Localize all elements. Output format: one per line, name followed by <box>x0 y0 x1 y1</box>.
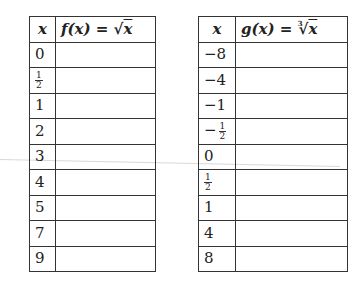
x-cell: −1 <box>199 93 236 119</box>
value-cell[interactable] <box>236 93 348 119</box>
x-cell: 3 <box>30 144 56 170</box>
value-cell[interactable] <box>236 221 348 247</box>
x-cell: 4 <box>30 170 56 196</box>
sqrt-icon: √ <box>114 20 124 38</box>
x-cell: 4 <box>199 221 236 247</box>
value-cell[interactable] <box>56 195 156 221</box>
table-row: 4 <box>199 221 348 247</box>
radicand: x <box>123 20 132 38</box>
table-row: 0 <box>30 42 156 68</box>
table-row: 0 <box>199 144 348 170</box>
table-row: 1 <box>30 93 156 119</box>
table-header-row: x f(x) = √x <box>30 17 156 43</box>
root-index: 3 <box>298 19 303 28</box>
header-fx-label: f(x) = <box>61 20 114 38</box>
x-cell: 12 <box>30 68 56 94</box>
table-row: 4 <box>30 170 156 196</box>
value-cell[interactable] <box>236 170 348 196</box>
x-cell: 8 <box>199 246 236 272</box>
table-g-cbrt: x g(x) = 3√x −8 −4 −1 −12 0 12 1 4 8 <box>198 16 348 272</box>
value-cell[interactable] <box>236 68 348 94</box>
table-row: −8 <box>199 42 348 68</box>
value-cell[interactable] <box>56 246 156 272</box>
table-row: −4 <box>199 68 348 94</box>
header-gx: g(x) = 3√x <box>236 17 348 43</box>
table-row: 3 <box>30 144 156 170</box>
value-cell[interactable] <box>236 195 348 221</box>
radicand: x <box>308 20 317 38</box>
value-cell[interactable] <box>56 221 156 247</box>
fraction: 12 <box>204 173 212 192</box>
x-cell: 9 <box>30 246 56 272</box>
table-row: 8 <box>199 246 348 272</box>
header-fx: f(x) = √x <box>56 17 156 43</box>
value-cell[interactable] <box>56 119 156 145</box>
table-row: 7 <box>30 221 156 247</box>
value-cell[interactable] <box>56 144 156 170</box>
value-cell[interactable] <box>236 42 348 68</box>
value-cell[interactable] <box>236 119 348 145</box>
table-row: 5 <box>30 195 156 221</box>
fraction: 12 <box>35 71 43 90</box>
value-cell[interactable] <box>236 144 348 170</box>
table-row: −12 <box>199 119 348 145</box>
x-cell: −12 <box>199 119 236 145</box>
table-header-row: x g(x) = 3√x <box>199 17 348 43</box>
value-cell[interactable] <box>56 42 156 68</box>
table-row: 12 <box>199 170 348 196</box>
x-cell: 0 <box>30 42 56 68</box>
table-row: 1 <box>199 195 348 221</box>
x-cell: 2 <box>30 119 56 145</box>
minus-sign: − <box>204 121 217 139</box>
header-gx-label: g(x) = <box>241 20 298 38</box>
x-cell: 1 <box>30 93 56 119</box>
value-cell[interactable] <box>236 246 348 272</box>
x-cell: 0 <box>199 144 236 170</box>
x-cell: 7 <box>30 221 56 247</box>
x-cell: 5 <box>30 195 56 221</box>
table-row: 2 <box>30 119 156 145</box>
x-cell: 1 <box>199 195 236 221</box>
table-f-sqrt: x f(x) = √x 0 12 1 2 3 4 5 7 9 <box>29 16 156 272</box>
table-row: −1 <box>199 93 348 119</box>
x-cell: −4 <box>199 68 236 94</box>
table-row: 12 <box>30 68 156 94</box>
fraction: 12 <box>219 122 227 141</box>
value-cell[interactable] <box>56 93 156 119</box>
value-cell[interactable] <box>56 170 156 196</box>
header-x: x <box>30 17 56 43</box>
x-cell: −8 <box>199 42 236 68</box>
x-cell: 12 <box>199 170 236 196</box>
value-cell[interactable] <box>56 68 156 94</box>
header-x: x <box>199 17 236 43</box>
table-row: 9 <box>30 246 156 272</box>
